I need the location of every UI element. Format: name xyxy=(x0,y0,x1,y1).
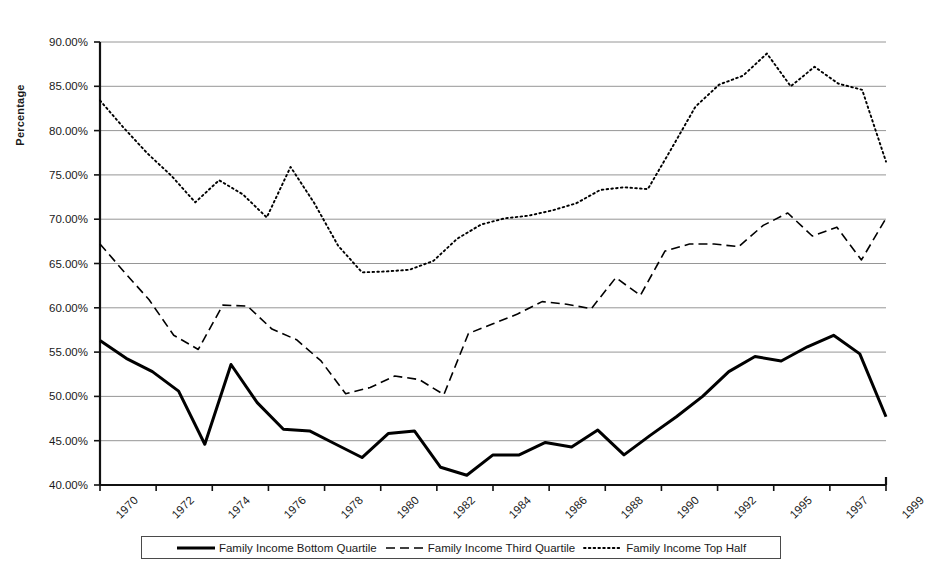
legend-item[interactable]: Family Income Bottom Quartile xyxy=(172,542,381,554)
legend-label: Family Income Bottom Quartile xyxy=(219,542,377,554)
legend-item[interactable]: Family Income Third Quartile xyxy=(381,542,579,554)
legend-label: Family Income Top Half xyxy=(626,542,746,554)
legend-swatch-dotted-icon xyxy=(583,543,623,553)
series-line-0 xyxy=(100,335,886,475)
legend-swatch-dashed-icon xyxy=(385,543,425,553)
legend-item[interactable]: Family Income Top Half xyxy=(579,542,750,554)
legend-label: Family Income Third Quartile xyxy=(428,542,575,554)
chart-legend: Family Income Bottom QuartileFamily Inco… xyxy=(141,536,781,559)
series-line-1 xyxy=(100,213,886,395)
legend-swatch-solid-icon xyxy=(176,543,216,553)
